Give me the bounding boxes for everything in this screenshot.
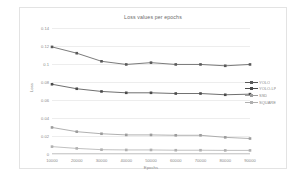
- data-point-marker: [224, 149, 227, 152]
- data-point-marker: [224, 93, 227, 96]
- data-point-marker: [199, 134, 202, 137]
- data-point-marker: [51, 126, 54, 129]
- data-point-marker: [224, 65, 227, 68]
- data-point-marker: [100, 90, 103, 93]
- data-point-marker: [75, 87, 78, 90]
- data-point-marker: [75, 147, 78, 150]
- x-axis-tick-label: 80000: [220, 158, 231, 163]
- chart-title: Loss values per epochs: [20, 14, 286, 20]
- data-point-marker: [150, 134, 153, 137]
- data-point-marker: [174, 92, 177, 95]
- y-axis-tick-label: 0.04: [41, 116, 49, 121]
- y-axis-tick-label: 0: [47, 152, 49, 157]
- y-axis-title: Loss: [29, 83, 34, 92]
- data-point-marker: [125, 134, 128, 137]
- x-axis-tick-label: 30000: [96, 158, 107, 163]
- gridline: [52, 154, 250, 155]
- legend-marker-icon: [245, 99, 258, 105]
- legend-marker-icon: [245, 79, 258, 85]
- legend-marker-icon: [245, 86, 258, 92]
- y-axis-tick-label: 0.08: [41, 80, 49, 85]
- legend-item-label: YOLO-LP: [259, 86, 276, 91]
- series-lines: [52, 28, 250, 154]
- data-point-marker: [125, 92, 128, 95]
- legend-marker-icon: [245, 92, 258, 98]
- x-axis-tick-label: 90000: [244, 158, 255, 163]
- data-point-marker: [150, 149, 153, 152]
- data-point-marker: [100, 148, 103, 151]
- legend-item-label: SQUARE: [259, 100, 276, 105]
- legend-item[interactable]: SSD: [245, 92, 303, 99]
- data-point-marker: [150, 92, 153, 95]
- data-point-marker: [75, 52, 78, 55]
- y-axis-tick-label: 0.1: [43, 62, 49, 67]
- data-point-marker: [125, 63, 128, 66]
- y-axis-tick-label: 0.14: [41, 26, 49, 31]
- legend-item[interactable]: YOLO-LP: [245, 86, 303, 93]
- data-point-marker: [199, 149, 202, 152]
- y-axis-tick-label: 0.02: [41, 134, 49, 139]
- legend-item-label: YOLO: [259, 80, 270, 85]
- y-axis-tick-label: 0.12: [41, 44, 49, 49]
- legend-item-label: SSD: [259, 93, 267, 98]
- data-point-marker: [249, 137, 252, 140]
- legend-item[interactable]: SQUARE: [245, 99, 303, 106]
- data-point-marker: [125, 149, 128, 152]
- x-axis-tick-label: 60000: [170, 158, 181, 163]
- data-point-marker: [174, 134, 177, 137]
- data-point-marker: [224, 136, 227, 139]
- x-axis-tick-label: 50000: [145, 158, 156, 163]
- x-axis-title: Epochs: [52, 165, 250, 170]
- x-axis-tick-label: 40000: [121, 158, 132, 163]
- x-axis-tick-label: 10000: [46, 158, 57, 163]
- series-line: [52, 127, 250, 138]
- data-point-marker: [51, 145, 54, 148]
- legend-item[interactable]: YOLO: [245, 79, 303, 86]
- data-point-marker: [174, 149, 177, 152]
- data-point-marker: [249, 149, 252, 152]
- data-point-marker: [51, 83, 54, 86]
- data-point-marker: [100, 60, 103, 63]
- chart-legend: YOLOYOLO-LPSSDSQUARE: [245, 79, 303, 105]
- x-axis-tick-label: 20000: [71, 158, 82, 163]
- data-point-marker: [174, 63, 177, 66]
- y-axis-tick-label: 0.06: [41, 98, 49, 103]
- plot-area: 00.020.040.060.080.10.120.14 10000200003…: [52, 28, 250, 154]
- data-point-marker: [150, 61, 153, 64]
- data-point-marker: [100, 132, 103, 135]
- data-point-marker: [199, 92, 202, 95]
- data-point-marker: [51, 46, 54, 49]
- data-point-marker: [199, 63, 202, 66]
- data-point-marker: [249, 63, 252, 66]
- x-axis-tick-label: 70000: [195, 158, 206, 163]
- data-point-marker: [75, 130, 78, 133]
